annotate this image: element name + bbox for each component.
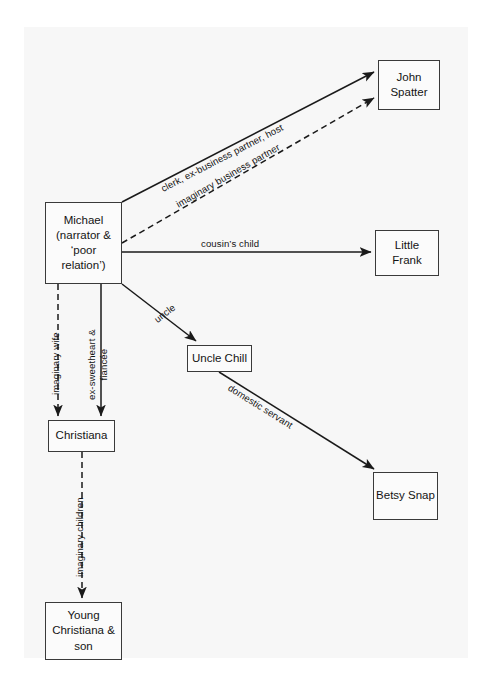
node-little-frank[interactable]: Little Frank [375,230,439,276]
node-uncle-chill[interactable]: Uncle Chill [187,345,252,372]
edge-label-imaginary-children: imaginary children [74,497,86,577]
edge-label-imaginary-wife: imaginary wife [50,332,62,395]
edge-label-ex-sweetheart-fiancee: ex-sweetheart & fiancée [86,329,110,400]
node-michael[interactable]: Michael (narrator & ‘poor relation’) [45,202,122,284]
node-young-christiana-son[interactable]: Young Christiana & son [45,602,122,660]
node-john-spatter[interactable]: John Spatter [378,60,440,110]
node-christiana[interactable]: Christiana [48,420,115,452]
edge-label-cousins-child: cousin’s child [201,238,259,250]
diagram-canvas: John Spatter Michael (narrator & ‘poor r… [0,0,492,685]
node-betsy-snap[interactable]: Betsy Snap [373,472,438,520]
